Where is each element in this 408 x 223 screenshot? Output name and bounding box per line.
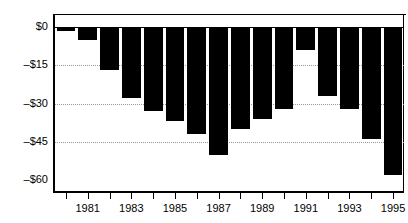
y-axis: $0–$15–$30–$45–$60: [0, 0, 48, 223]
x-tick: [110, 193, 111, 199]
x-tick: [240, 193, 241, 199]
x-tick: [328, 193, 329, 199]
y-tick-label: –$45: [2, 136, 48, 147]
x-tick: [131, 193, 132, 199]
x-tick: [393, 193, 394, 199]
bar: [384, 27, 403, 175]
x-axis-ticks: [53, 193, 404, 201]
x-tick-label: 1983: [119, 202, 143, 214]
bar: [231, 27, 250, 129]
x-tick: [66, 193, 67, 199]
x-tick: [262, 193, 263, 199]
bar: [100, 27, 119, 70]
x-tick: [153, 193, 154, 199]
x-tick: [197, 193, 198, 199]
x-axis-labels: 19811983198519871989199119931995: [0, 202, 408, 222]
x-tick: [306, 193, 307, 199]
x-tick-label: 1995: [381, 202, 405, 214]
plot-area: [53, 14, 404, 193]
bar-series: [55, 14, 404, 193]
y-tick-label: –$15: [2, 59, 48, 70]
y-tick-label: –$30: [2, 98, 48, 109]
x-tick: [349, 193, 350, 199]
x-tick-label: 1987: [206, 202, 230, 214]
x-tick-label: 1985: [163, 202, 187, 214]
plot-box: [55, 14, 404, 191]
bar: [253, 27, 272, 119]
x-tick-label: 1991: [294, 202, 318, 214]
x-tick-label: 1981: [75, 202, 99, 214]
x-tick-label: 1989: [250, 202, 274, 214]
bar: [362, 27, 381, 139]
x-tick: [284, 193, 285, 199]
x-tick: [175, 193, 176, 199]
bar: [296, 27, 315, 50]
bar: [318, 27, 337, 96]
x-tick: [219, 193, 220, 199]
x-tick-label: 1993: [337, 202, 361, 214]
bar: [275, 27, 294, 109]
bar: [166, 27, 185, 121]
bar-chart-figure: $0–$15–$30–$45–$60 198119831985198719891…: [0, 0, 408, 223]
bar: [144, 27, 163, 111]
bar: [78, 27, 97, 40]
y-tick-label: $0: [2, 21, 48, 32]
x-tick: [371, 193, 372, 199]
bar: [122, 27, 141, 98]
y-tick-label: –$60: [2, 174, 48, 185]
bar: [209, 27, 228, 155]
x-tick: [88, 193, 89, 199]
bar: [187, 27, 206, 134]
bar: [340, 27, 359, 109]
bar: [57, 27, 76, 31]
